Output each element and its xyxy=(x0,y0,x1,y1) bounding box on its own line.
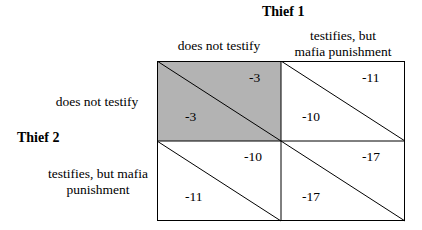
row-strategy-label-2-line2: punishment xyxy=(40,182,156,198)
column-strategy-label-2-line2: mafia punishment xyxy=(281,44,405,60)
column-player-title: Thief 1 xyxy=(262,4,304,20)
row-player-title: Thief 2 xyxy=(17,130,59,146)
payoff-matrix: -3 -3 -11 -10 -10 -11 -17 -17 xyxy=(157,61,405,221)
column-strategy-label-2-line1: testifies, but xyxy=(281,28,405,44)
column-strategy-label-2: testifies, but mafia punishment xyxy=(281,28,405,60)
payoff-r2c2-thief2: -17 xyxy=(302,189,320,205)
payoff-r2c1-thief2: -11 xyxy=(185,189,203,205)
row-strategy-label-2: testifies, but mafia punishment xyxy=(40,166,156,198)
column-strategy-label-1-text: does not testify xyxy=(178,38,261,53)
row-strategy-label-1-text: does not testify xyxy=(56,94,139,109)
payoff-r1c1-thief2: -3 xyxy=(185,109,196,125)
row-strategy-label-2-line1: testifies, but mafia xyxy=(40,166,156,182)
column-strategy-label-1: does not testify xyxy=(157,38,281,54)
payoff-r1c2-thief1: -11 xyxy=(362,70,380,86)
payoff-r2c2-thief1: -17 xyxy=(362,149,380,165)
payoff-r1c1-thief1: -3 xyxy=(249,70,260,86)
row-strategy-label-1: does not testify xyxy=(40,94,154,110)
payoff-r1c2-thief2: -10 xyxy=(302,109,320,125)
payoff-r2c1-thief1: -10 xyxy=(244,149,262,165)
